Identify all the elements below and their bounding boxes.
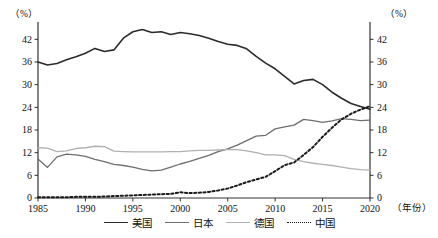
chart-legend: 美国日本德国中国 [0,215,438,230]
series-line-japan [38,119,370,171]
legend-label: 中国 [315,215,335,230]
legend-swatch-icon [287,222,311,223]
legend-swatch-icon [226,222,250,223]
y-tick-label-left: 24 [22,102,32,113]
y-tick-label-left: 30 [22,79,32,90]
y-tick-label-left: 42 [22,34,32,45]
y-tick-label-right: 36 [377,56,387,67]
y-tick-label-left: 0 [27,192,32,203]
y-tick-label-right: 42 [377,34,387,45]
y-tick-label-right: 18 [377,124,387,135]
y-tick-label-right: 0 [377,192,382,203]
legend-swatch-icon [104,222,128,223]
y-tick-label-right: 24 [377,102,387,113]
y-tick-label-right: 6 [377,170,382,181]
y-tick-label-left: 6 [27,170,32,181]
legend-swatch-icon [165,222,189,223]
y-tick-label-right: 12 [377,147,387,158]
x-tick-label: 2020 [360,203,380,214]
x-axis-title: （年份） [392,200,432,214]
x-tick-label: 1995 [123,203,143,214]
legend-label: 日本 [193,215,213,230]
chart-plot-area: 0612182430364206121824303642198519901995… [0,0,438,238]
line-chart: （%） （%） 06121824303642061218243036421985… [0,0,438,238]
legend-item-3[interactable]: 德国 [226,215,274,230]
series-line-usa [38,30,370,110]
x-tick-label: 2005 [218,203,238,214]
x-tick-label: 2010 [265,203,285,214]
legend-label: 德国 [254,215,274,230]
legend-item-4[interactable]: 中国 [287,215,335,230]
x-tick-label: 1985 [28,203,48,214]
y-tick-label-left: 12 [22,147,32,158]
y-tick-label-left: 18 [22,124,32,135]
x-tick-label: 2015 [313,203,333,214]
legend-item-1[interactable]: 美国 [104,215,152,230]
series-line-germany [38,146,370,170]
x-tick-label: 2000 [170,203,190,214]
legend-label: 美国 [132,215,152,230]
x-tick-label: 1990 [75,203,95,214]
series-line-china [38,106,370,197]
legend-item-2[interactable]: 日本 [165,215,213,230]
y-tick-label-left: 36 [22,56,32,67]
y-tick-label-right: 30 [377,79,387,90]
